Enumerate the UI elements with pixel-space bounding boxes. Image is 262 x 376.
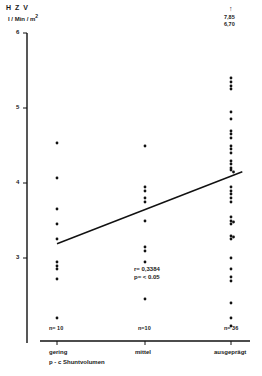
data-points bbox=[56, 77, 235, 328]
off-scale-value-1: 7,85 bbox=[224, 14, 235, 20]
r-value-label: r= 0,3384 bbox=[134, 266, 160, 272]
data-point bbox=[230, 81, 233, 84]
data-point bbox=[230, 148, 233, 151]
y-tick-label: 5 bbox=[16, 104, 19, 110]
data-point bbox=[144, 190, 147, 193]
off-scale-value-2: 6,70 bbox=[224, 21, 235, 27]
scatter-chart bbox=[0, 0, 262, 376]
n-label-gering: n= 10 bbox=[49, 325, 63, 331]
data-point bbox=[230, 317, 233, 320]
data-point bbox=[230, 145, 233, 148]
data-point bbox=[230, 163, 233, 166]
data-point bbox=[230, 186, 233, 189]
data-point bbox=[230, 77, 233, 80]
data-point bbox=[144, 197, 147, 200]
data-point bbox=[56, 265, 59, 268]
data-point bbox=[144, 261, 147, 264]
data-point bbox=[230, 223, 233, 226]
data-point bbox=[56, 238, 59, 241]
data-point bbox=[56, 177, 59, 180]
data-point bbox=[56, 142, 59, 145]
off-scale-arrow-icon: ↑ bbox=[229, 5, 233, 12]
data-point bbox=[144, 186, 147, 189]
regression-line bbox=[57, 172, 242, 244]
data-point bbox=[230, 133, 233, 136]
x-axis-title: p - c Shuntvolumen bbox=[49, 359, 105, 365]
data-point bbox=[230, 220, 233, 223]
category-label-gering: gering bbox=[49, 349, 67, 355]
n-label-mittel: n=10 bbox=[138, 325, 151, 331]
data-point bbox=[232, 236, 235, 239]
n-label-ausgepraegt: n= 36 bbox=[224, 325, 238, 331]
y-axis-title: H Z V bbox=[6, 4, 29, 11]
category-label-mittel: mittel bbox=[135, 349, 151, 355]
data-point bbox=[230, 130, 233, 133]
data-point bbox=[144, 298, 147, 301]
data-point bbox=[230, 160, 233, 163]
data-point bbox=[230, 111, 233, 114]
data-point bbox=[230, 268, 233, 271]
data-point bbox=[230, 118, 233, 121]
data-point bbox=[230, 280, 233, 283]
data-point bbox=[230, 302, 233, 305]
p-value-label: p= < 0.05 bbox=[134, 274, 160, 280]
data-point bbox=[56, 317, 59, 320]
data-point bbox=[230, 137, 233, 140]
data-point bbox=[230, 238, 233, 241]
data-point bbox=[56, 208, 59, 211]
data-point bbox=[230, 85, 233, 88]
data-point bbox=[232, 171, 235, 174]
data-point bbox=[230, 88, 233, 91]
data-point bbox=[230, 257, 233, 260]
data-point bbox=[144, 250, 147, 253]
data-point bbox=[230, 216, 233, 219]
y-tick-label: 6 bbox=[16, 29, 19, 35]
data-point bbox=[144, 145, 147, 148]
y-axis-unit: l / Min / m2 bbox=[8, 13, 38, 22]
data-point bbox=[56, 278, 59, 281]
category-label-ausgepraegt: ausgeprägt bbox=[214, 349, 246, 355]
data-point bbox=[144, 246, 147, 249]
data-point bbox=[230, 169, 233, 172]
y-tick-label: 3 bbox=[16, 254, 19, 260]
data-point bbox=[230, 276, 233, 279]
data-point bbox=[230, 197, 233, 200]
data-point bbox=[230, 235, 233, 238]
y-tick-label: 4 bbox=[16, 179, 19, 185]
data-point bbox=[230, 152, 233, 155]
data-point bbox=[230, 190, 233, 193]
data-point bbox=[56, 261, 59, 264]
data-point bbox=[232, 221, 235, 224]
data-point bbox=[56, 223, 59, 226]
data-point bbox=[144, 220, 147, 223]
data-point bbox=[230, 201, 233, 204]
data-point bbox=[230, 193, 233, 196]
data-point bbox=[56, 268, 59, 271]
data-point bbox=[144, 201, 147, 204]
